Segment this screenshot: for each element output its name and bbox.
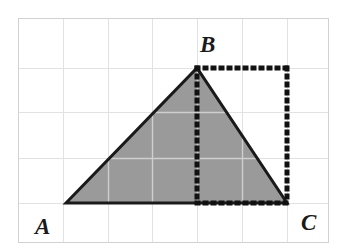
- vertex-label-b: B: [200, 33, 215, 56]
- geometry-figure: A B C: [0, 0, 346, 249]
- vertex-label-c: C: [301, 211, 316, 234]
- geometry-canvas: [0, 0, 346, 249]
- vertex-label-a: A: [35, 215, 50, 238]
